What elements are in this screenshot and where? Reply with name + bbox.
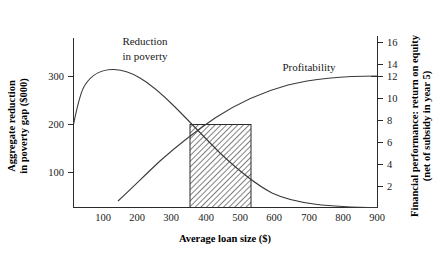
right-axis-title-line2: (net of subsidy in year 5) bbox=[421, 70, 433, 181]
right-tick-label-16: 16 bbox=[387, 37, 398, 48]
x-axis-title: Average loan size ($) bbox=[179, 233, 272, 245]
chart-svg: 300 200 100 Aggregate reduction in pover… bbox=[0, 0, 442, 253]
right-y-axis: 16 14 12 10 8 6 4 2 bbox=[371, 36, 398, 208]
right-tick-label-14: 14 bbox=[387, 59, 398, 70]
x-tick-label-400: 400 bbox=[198, 212, 214, 223]
left-axis-title-line1: Aggregate reduction bbox=[6, 80, 17, 172]
profitability-label: Profitability bbox=[282, 61, 336, 73]
x-tick-label-800: 800 bbox=[335, 212, 351, 223]
reduction-in-poverty-label-line1: Reduction bbox=[122, 35, 168, 47]
right-tick-label-10: 10 bbox=[387, 93, 398, 104]
x-tick-label-300: 300 bbox=[163, 212, 179, 223]
right-tick-label-8: 8 bbox=[387, 115, 392, 126]
right-tick-label-4: 4 bbox=[387, 159, 393, 170]
left-y-axis: 300 200 100 bbox=[48, 38, 73, 208]
left-axis-title: Aggregate reduction in poverty gap ($000… bbox=[6, 78, 30, 174]
x-tick-label-500: 500 bbox=[232, 212, 248, 223]
x-tick-label-600: 600 bbox=[266, 212, 282, 223]
x-tick-label-700: 700 bbox=[301, 212, 317, 223]
right-tick-label-2: 2 bbox=[387, 181, 392, 192]
right-tick-label-6: 6 bbox=[387, 137, 392, 148]
right-axis-title: Financial performance: return on equity … bbox=[409, 34, 433, 217]
optimal-loan-size-band bbox=[190, 125, 251, 208]
right-tick-label-12: 12 bbox=[387, 71, 398, 82]
x-tick-label-900: 900 bbox=[369, 212, 385, 223]
x-axis: 100 200 300 400 500 600 700 800 900 Aver… bbox=[74, 208, 385, 246]
reduction-in-poverty-label-line2: in poverty bbox=[123, 50, 168, 62]
x-tick-label-100: 100 bbox=[95, 212, 111, 223]
chart-container: 300 200 100 Aggregate reduction in pover… bbox=[0, 0, 442, 253]
left-tick-label-300: 300 bbox=[48, 71, 64, 82]
left-tick-label-100: 100 bbox=[48, 167, 64, 178]
x-tick-label-200: 200 bbox=[129, 212, 145, 223]
left-axis-title-line2: in poverty gap ($000) bbox=[18, 78, 30, 174]
right-axis-title-line1: Financial performance: return on equity bbox=[409, 34, 420, 217]
left-tick-label-200: 200 bbox=[48, 119, 64, 130]
